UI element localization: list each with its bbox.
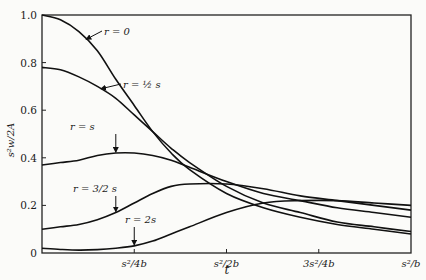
curves xyxy=(42,15,411,250)
line-chart: r = 0r = ½ sr = sr = 3/2 sr = 2s 00.20.4… xyxy=(0,0,426,280)
annotation-label: r = 3/2 s xyxy=(73,183,117,194)
x-axis-ticks: s²/4bs²/2b3s²/4bs²/b xyxy=(122,249,421,269)
y-tick-label: 0 xyxy=(30,247,37,259)
annotation-label: r = 0 xyxy=(104,26,131,37)
annotation-label: r = s xyxy=(70,121,95,132)
y-tick-label: 0.8 xyxy=(20,57,37,69)
annotation-label: r = 2s xyxy=(125,214,156,225)
annotation-arrow xyxy=(86,31,102,39)
y-tick-label: 1.0 xyxy=(20,9,37,21)
x-tick-label: 3s²/4b xyxy=(303,258,335,269)
curve-series-1 xyxy=(42,67,411,231)
x-tick-label: s²/b xyxy=(402,258,421,269)
y-tick-label: 0.4 xyxy=(20,152,37,164)
y-tick-label: 0.2 xyxy=(20,199,37,211)
y-axis-label: s²w/2A xyxy=(5,123,16,158)
y-tick-label: 0.6 xyxy=(20,104,37,116)
annotation-arrow xyxy=(101,84,121,89)
annotation-label: r = ½ s xyxy=(123,79,161,90)
x-axis-label: t xyxy=(225,263,230,277)
x-tick-label: s²/4b xyxy=(122,258,147,269)
